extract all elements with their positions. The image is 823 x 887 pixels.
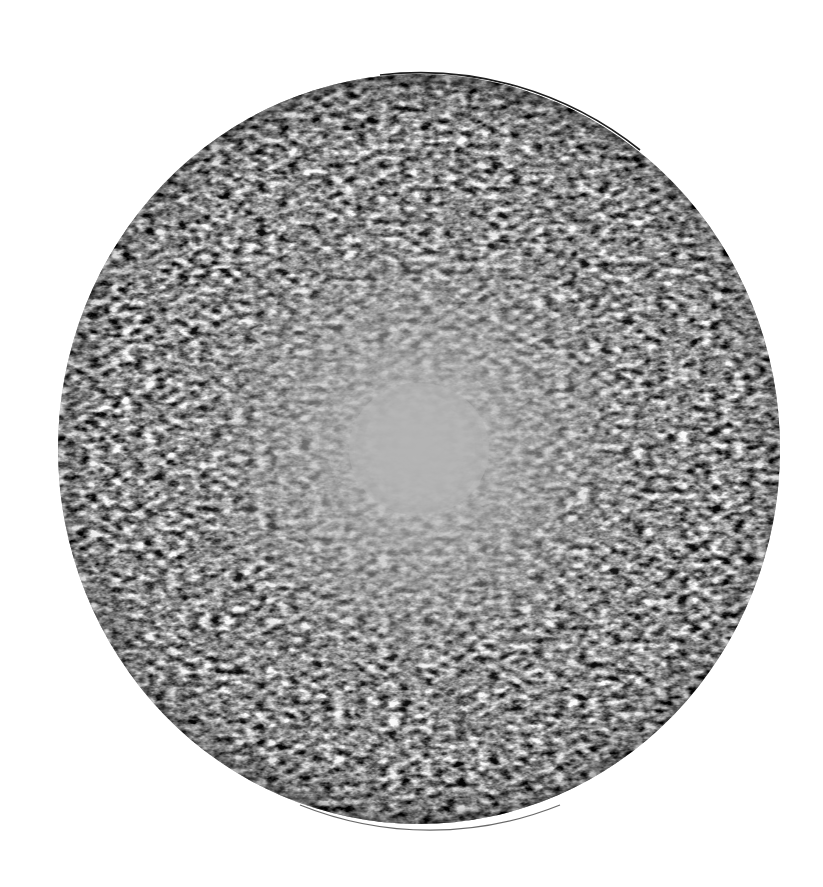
sphere-body: [0, 0, 823, 887]
textured-sphere: [0, 0, 823, 887]
image-canvas: [0, 0, 823, 887]
